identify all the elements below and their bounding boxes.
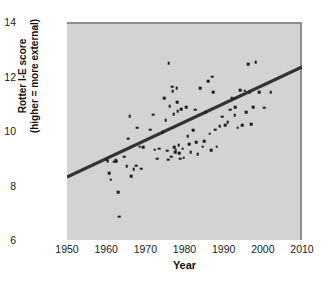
data-point [201, 146, 204, 149]
y-axis-tick-label: 6 [0, 234, 16, 246]
data-point [163, 97, 166, 100]
x-axis-tick-label: 2010 [280, 243, 324, 255]
data-point [161, 131, 164, 134]
x-axis-label: Year [67, 259, 302, 271]
data-point [125, 165, 128, 168]
data-point [168, 62, 171, 65]
data-point [245, 111, 248, 114]
data-point [174, 151, 177, 154]
data-point [127, 137, 130, 140]
data-points-layer [67, 22, 302, 240]
data-point [118, 216, 121, 219]
data-point [203, 140, 206, 143]
x-axis-tick-label: 1980 [163, 243, 207, 255]
y-axis-tick-label: 8 [0, 180, 16, 192]
x-axis-tick-label: 1950 [45, 243, 89, 255]
scatter-chart-figure: 68101214 1950196019701980199020002010 Ye… [0, 0, 329, 291]
y-axis-tick-label: 14 [0, 16, 16, 28]
data-point [195, 141, 198, 144]
data-point [232, 98, 235, 101]
plot-area [67, 22, 302, 240]
y-axis-tick-label: 10 [0, 125, 16, 137]
data-point [189, 151, 192, 154]
data-point [250, 123, 253, 126]
data-point [185, 106, 188, 109]
x-axis-tick-label: 2000 [241, 243, 285, 255]
data-point [214, 128, 217, 131]
y-axis-label-line2: (higher = more external) [29, 0, 41, 166]
data-point [106, 160, 109, 163]
data-point [254, 61, 257, 64]
data-point [247, 63, 250, 66]
data-point [123, 156, 126, 159]
data-point [166, 149, 169, 152]
data-point [212, 91, 215, 94]
data-point [207, 80, 210, 83]
data-point [269, 91, 272, 94]
data-point [115, 160, 118, 163]
y-axis-label-line1: Rotter I-E score [17, 0, 29, 166]
data-point [130, 175, 133, 178]
data-point [244, 89, 247, 92]
data-point [186, 135, 189, 138]
data-point [175, 148, 178, 151]
data-point [215, 146, 218, 149]
data-point [167, 158, 170, 161]
data-point [178, 152, 181, 155]
data-point [164, 119, 167, 122]
data-point [224, 124, 227, 127]
data-point [210, 149, 213, 152]
data-point [128, 115, 131, 118]
data-point [252, 106, 255, 109]
data-point [218, 125, 221, 128]
data-point [132, 168, 135, 171]
data-point [234, 106, 237, 109]
data-point [229, 108, 232, 111]
data-point [149, 128, 152, 131]
data-point [241, 124, 244, 127]
x-axis-tick-label: 1970 [123, 243, 167, 255]
data-point [188, 143, 191, 146]
data-point [110, 178, 113, 181]
data-point [153, 148, 156, 151]
data-point [236, 126, 239, 129]
data-point [258, 91, 261, 94]
data-point [172, 113, 175, 116]
y-axis-label: Rotter I-E score (higher = more external… [17, 0, 41, 166]
data-point [226, 121, 229, 124]
data-point [233, 114, 236, 117]
x-axis-tick-label: 1990 [202, 243, 246, 255]
data-point [170, 156, 173, 159]
data-point [136, 126, 139, 129]
data-point [179, 157, 182, 160]
data-point [197, 153, 200, 156]
data-point [152, 113, 155, 116]
data-point [175, 87, 178, 90]
data-point [177, 110, 180, 113]
data-point [158, 147, 161, 150]
data-point [171, 90, 174, 93]
data-point [263, 107, 266, 110]
data-point [181, 147, 184, 150]
data-point [135, 165, 138, 168]
data-point [199, 87, 202, 90]
data-point [192, 129, 195, 132]
data-point [177, 144, 180, 147]
data-point [180, 108, 183, 111]
data-point [211, 75, 214, 78]
data-point [142, 146, 145, 149]
data-point [204, 111, 207, 114]
y-axis-tick-label: 12 [0, 71, 16, 83]
data-point [176, 101, 179, 104]
data-point [208, 132, 211, 135]
data-point [156, 157, 159, 160]
data-point [182, 156, 185, 159]
data-point [239, 89, 242, 92]
data-point [248, 91, 251, 94]
data-point [221, 116, 224, 119]
data-point [108, 172, 111, 175]
data-point [117, 191, 120, 194]
data-point [168, 105, 171, 108]
x-axis-tick-label: 1960 [84, 243, 128, 255]
data-point [194, 108, 197, 111]
